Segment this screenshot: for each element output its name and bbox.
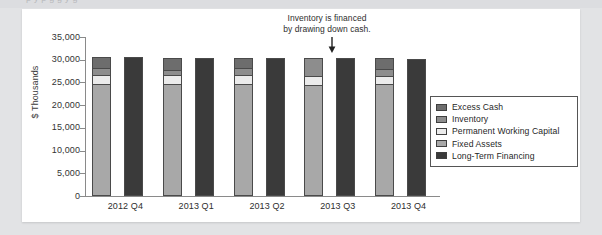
stacked-bar-assets[interactable] (163, 58, 182, 196)
y-axis-tick-label: 5,000 (34, 169, 80, 178)
bar-segment-long-term-financing[interactable] (125, 58, 142, 195)
x-axis-label: 2013 Q3 (298, 201, 378, 211)
x-axis-label: 2012 Q4 (85, 201, 165, 211)
y-axis-tick-label: 10,000 (34, 146, 80, 155)
chart-legend: Excess CashInventoryPermanent Working Ca… (430, 96, 578, 167)
y-axis-tick-mark (80, 173, 85, 174)
down-arrow-icon (325, 37, 339, 53)
legend-swatch-icon (436, 128, 447, 135)
y-axis-tick-label: 25,000 (34, 78, 80, 87)
y-axis-tick-mark (80, 82, 85, 83)
x-axis-label: 2013 Q1 (156, 201, 236, 211)
legend-item-label: Inventory (452, 114, 488, 124)
legend-item[interactable]: Inventory (436, 113, 572, 125)
bar-segment-fixed-assets[interactable] (93, 84, 110, 195)
bar-segment-permanent-working-capital[interactable] (93, 75, 110, 84)
bar-segment-long-term-financing[interactable] (337, 59, 354, 195)
bar-segment-inventory[interactable] (376, 69, 393, 76)
bar-group (86, 37, 157, 196)
legend-swatch-icon (436, 104, 447, 111)
top-sliver-text: p y p g g y g (26, 0, 602, 3)
y-axis-tick-label: 15,000 (34, 123, 80, 132)
plot-area (86, 37, 440, 196)
bar-long-term-financing[interactable] (336, 58, 355, 196)
y-axis-tick-mark (80, 105, 85, 106)
y-axis-tick-mark (80, 37, 85, 38)
bar-segment-excess-cash[interactable] (164, 59, 181, 70)
bar-long-term-financing[interactable] (195, 58, 214, 196)
bar-segment-fixed-assets[interactable] (235, 84, 252, 195)
bar-group (228, 37, 299, 196)
y-axis-tick-mark (80, 151, 85, 152)
chart-canvas: $ Thousands 35,00030,00025,00020,00015,0… (22, 9, 580, 222)
bar-segment-long-term-financing[interactable] (267, 59, 284, 195)
y-axis-tick-label: 20,000 (34, 101, 80, 110)
bar-segment-excess-cash[interactable] (235, 59, 252, 68)
legend-item[interactable]: Excess Cash (436, 101, 572, 113)
bar-segment-inventory[interactable] (305, 59, 322, 76)
legend-item-label: Fixed Assets (452, 139, 502, 149)
legend-item[interactable]: Fixed Assets (436, 138, 572, 150)
page-root: p y p g g y g $ Thousands 35,00030,00025… (0, 0, 602, 235)
y-axis-tick-label: 35,000 (34, 33, 80, 42)
chart-annotation: Inventory is financed by drawing down ca… (262, 13, 392, 35)
bar-segment-permanent-working-capital[interactable] (305, 76, 322, 85)
bar-group (298, 37, 369, 196)
bar-segment-excess-cash[interactable] (93, 58, 110, 67)
bar-long-term-financing[interactable] (124, 57, 143, 196)
y-axis-tick-mark (80, 128, 85, 129)
bar-segment-fixed-assets[interactable] (305, 85, 322, 195)
annotation-line-1: Inventory is financed (262, 13, 392, 24)
bar-long-term-financing[interactable] (266, 58, 285, 196)
x-axis-line (85, 196, 440, 197)
y-axis-tick-labels: 35,00030,00025,00020,00015,00010,0005,00… (32, 9, 80, 222)
bar-segment-fixed-assets[interactable] (164, 84, 181, 195)
legend-item[interactable]: Long-Term Financing (436, 150, 572, 162)
bar-segment-permanent-working-capital[interactable] (376, 76, 393, 84)
stacked-bar-assets[interactable] (92, 57, 111, 196)
bar-segment-permanent-working-capital[interactable] (235, 75, 252, 84)
bar-long-term-financing[interactable] (407, 59, 426, 196)
legend-swatch-icon (436, 140, 447, 147)
x-axis-label: 2013 Q4 (369, 201, 449, 211)
bar-segment-fixed-assets[interactable] (376, 84, 393, 195)
page-top-text-sliver: p y p g g y g (0, 0, 602, 8)
stacked-bar-assets[interactable] (375, 58, 394, 196)
legend-swatch-icon (436, 152, 447, 159)
legend-item-label: Excess Cash (452, 102, 503, 112)
bar-segment-inventory[interactable] (235, 68, 252, 75)
legend-item-label: Long-Term Financing (452, 151, 535, 161)
bar-group (157, 37, 228, 196)
bar-segment-long-term-financing[interactable] (196, 59, 213, 195)
y-axis-tick-label: 30,000 (34, 55, 80, 64)
legend-item[interactable]: Permanent Working Capital (436, 125, 572, 137)
bar-segment-excess-cash[interactable] (376, 59, 393, 69)
y-axis-tick-mark (80, 196, 85, 197)
bar-segment-inventory[interactable] (93, 68, 110, 75)
stacked-bar-assets[interactable] (304, 58, 323, 196)
legend-swatch-icon (436, 116, 447, 123)
annotation-line-2: by drawing down cash. (262, 24, 392, 35)
figure-panel: $ Thousands 35,00030,00025,00020,00015,0… (22, 9, 580, 222)
legend-item-label: Permanent Working Capital (452, 126, 559, 136)
bar-segment-long-term-financing[interactable] (408, 60, 425, 195)
stacked-bar-assets[interactable] (234, 58, 253, 196)
x-axis-label: 2013 Q2 (227, 201, 307, 211)
bar-segment-permanent-working-capital[interactable] (164, 75, 181, 84)
y-axis-tick-mark (80, 60, 85, 61)
y-axis-tick-label: 0 (34, 192, 80, 201)
